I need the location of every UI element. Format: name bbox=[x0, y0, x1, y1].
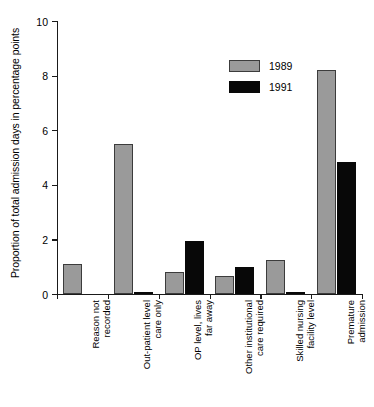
bar-1989-5 bbox=[317, 70, 336, 294]
y-tick-label: 4 bbox=[42, 179, 48, 191]
y-tick-label: 2 bbox=[42, 234, 48, 246]
y-tick-label: 8 bbox=[42, 70, 48, 82]
bar-1989-4 bbox=[266, 260, 285, 294]
bar-1991-1 bbox=[134, 292, 153, 294]
y-tick-mark: 8 bbox=[52, 76, 57, 77]
y-tick-mark: 10 bbox=[52, 21, 57, 22]
x-tick-label-group: Reason notrecordedOut-patient levelcare … bbox=[57, 300, 362, 407]
y-tick-mark: 4 bbox=[52, 185, 57, 186]
x-tick-mark bbox=[57, 294, 58, 299]
x-tick-label: Reason notrecorded bbox=[91, 300, 121, 405]
bar-chart-figure: Proportion of total admission days in pe… bbox=[0, 0, 374, 407]
bar-1991-5 bbox=[337, 162, 356, 294]
bar-1991-4 bbox=[286, 292, 305, 294]
legend-item-1989: 1989 bbox=[229, 58, 292, 74]
bar-1989-2 bbox=[165, 272, 184, 294]
bar-1989-0 bbox=[63, 264, 82, 294]
y-tick-mark: 2 bbox=[52, 239, 57, 240]
x-tick-label: Out-patient levelcare only bbox=[142, 300, 172, 405]
x-tick-mark bbox=[108, 294, 109, 299]
y-tick-label: 6 bbox=[42, 125, 48, 137]
chart-legend: 1989 1991 bbox=[229, 58, 292, 100]
x-tick-mark bbox=[159, 294, 160, 299]
bar-1991-2 bbox=[185, 241, 204, 294]
x-tick-mark bbox=[210, 294, 211, 299]
legend-label-1989: 1989 bbox=[269, 60, 292, 72]
legend-swatch-1989 bbox=[229, 60, 260, 72]
plot-area: 0246810 bbox=[57, 21, 362, 294]
legend-label-1991: 1991 bbox=[269, 81, 292, 93]
y-tick-label: 10 bbox=[36, 16, 48, 28]
x-tick-mark bbox=[362, 294, 363, 299]
x-tick-label: Prematureadmission bbox=[346, 300, 374, 405]
x-tick-label: Other institutionalcare required bbox=[244, 300, 274, 405]
y-axis-label: Proportion of total admission days in pe… bbox=[4, 3, 26, 303]
bar-1989-3 bbox=[215, 276, 234, 294]
x-tick-mark bbox=[311, 294, 312, 299]
y-tick-mark: 6 bbox=[52, 130, 57, 131]
x-tick-label: OP level, livesfar away bbox=[193, 300, 223, 405]
y-axis-line bbox=[57, 21, 58, 294]
x-tick-label: Skilled nursingfacility level bbox=[295, 300, 325, 405]
x-tick-mark bbox=[260, 294, 261, 299]
y-tick-label: 0 bbox=[42, 289, 48, 301]
bar-1989-1 bbox=[114, 144, 133, 294]
bar-1991-3 bbox=[235, 267, 254, 294]
legend-swatch-1991 bbox=[229, 81, 260, 93]
legend-item-1991: 1991 bbox=[229, 79, 292, 95]
